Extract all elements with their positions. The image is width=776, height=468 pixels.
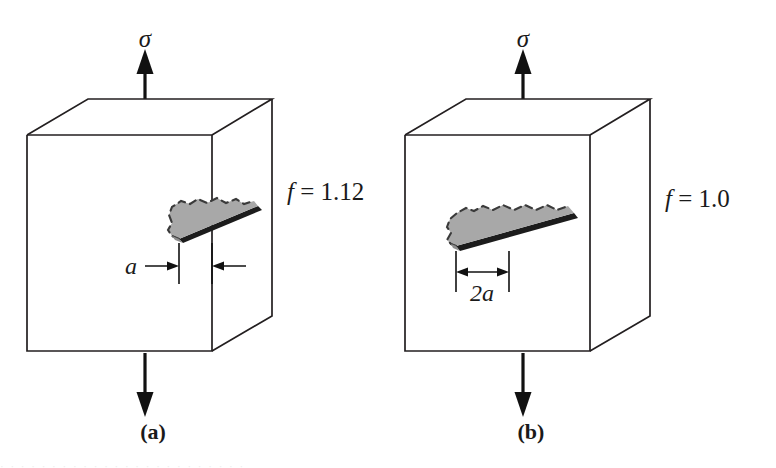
- stress-label-top-b: σ: [517, 25, 531, 52]
- factor-label-a: f = 1.12: [287, 178, 364, 205]
- factor-value-a: = 1.12: [294, 178, 364, 205]
- figure-canvas: σ: [0, 0, 776, 468]
- panel-a: σ: [27, 25, 364, 444]
- dimension-label-b: 2a: [470, 280, 494, 306]
- panel-label-a: (a): [140, 419, 166, 444]
- stress-arrow-down-b: [515, 353, 532, 417]
- factor-value-b: = 1.0: [672, 185, 730, 212]
- factor-label-b: f = 1.0: [665, 185, 730, 212]
- stress-label-top-a: σ: [139, 25, 153, 52]
- stress-arrow-down-a: [137, 353, 154, 417]
- cube-specimen-a: [27, 99, 272, 351]
- caption-bleed-text: · · · · · · · · · · · · · · · · · · · · …: [0, 461, 776, 468]
- panel-label-b: (b): [518, 419, 545, 444]
- panel-b: σ: [405, 25, 730, 444]
- dimension-label-a: a: [125, 253, 137, 279]
- fracture-mechanics-figure: σ: [0, 0, 776, 468]
